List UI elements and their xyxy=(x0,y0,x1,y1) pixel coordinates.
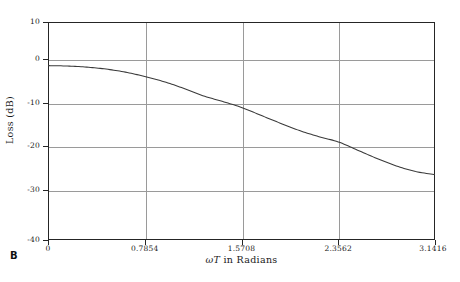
ytick-label--10: -10 xyxy=(12,99,40,107)
ytick-mark--30 xyxy=(43,190,48,191)
xtick-label-0.7854: 0.7854 xyxy=(125,245,165,253)
ytick-label-10: 10 xyxy=(12,18,40,26)
gridline-x-2.3562 xyxy=(339,23,340,239)
xtick-label-3.1416: 3.1416 xyxy=(413,245,453,253)
xtick-label-1.5708: 1.5708 xyxy=(222,245,262,253)
ytick-mark--10 xyxy=(43,103,48,104)
y-axis-title: Loss (dB) xyxy=(4,96,15,144)
gridline-y--10 xyxy=(49,104,434,105)
ytick-label--30: -30 xyxy=(12,186,40,194)
ytick-mark-0 xyxy=(43,59,48,60)
figure-panel-b: 10 0 -10 -20 -30 -40 0 0.7854 1.5708 2.3… xyxy=(0,0,460,282)
ytick-label--40: -40 xyxy=(12,236,40,244)
xtick-label-2.3562: 2.3562 xyxy=(318,245,358,253)
gridline-x-1.5708 xyxy=(243,23,244,239)
gridline-x-0.7854 xyxy=(146,23,147,239)
y-axis-title-wrap: Loss (dB) xyxy=(2,60,16,180)
x-axis-title: ωT in Radians xyxy=(48,254,435,265)
gridline-y--20 xyxy=(49,147,434,148)
ytick-label-0: 0 xyxy=(12,55,40,63)
x-axis-title-rest: in Radians xyxy=(220,254,277,265)
omega-symbol: ω xyxy=(206,254,214,265)
gridline-y-0 xyxy=(49,60,434,61)
xtick-label-0: 0 xyxy=(28,245,68,253)
ytick-mark--20 xyxy=(43,146,48,147)
plot-area xyxy=(48,22,435,240)
ytick-mark-10 xyxy=(43,22,48,23)
gridline-y--30 xyxy=(49,191,434,192)
ytick-label--20: -20 xyxy=(12,142,40,150)
panel-letter: B xyxy=(10,250,18,261)
